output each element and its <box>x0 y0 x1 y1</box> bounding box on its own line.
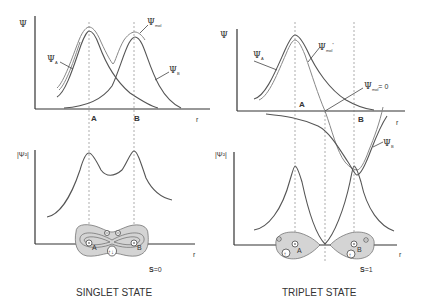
singlet-psi-a-label: ΨA <box>47 54 58 65</box>
singlet-bottom-panel: |Ψ²| r A B ↑↓ S=0 <box>17 150 196 273</box>
singlet-bottom-x-label: r <box>193 251 196 258</box>
triplet-nucleus-b-dot <box>353 243 355 245</box>
triplet-bottom-y-label: |Ψ²| <box>215 151 227 159</box>
triplet-top-y-label: Ψ <box>220 30 228 40</box>
triplet-top-x-label: r <box>396 119 399 126</box>
triplet-spin-up-a: ↑ <box>284 251 287 257</box>
singlet-spin-pair: ↑↓ <box>108 249 114 255</box>
triplet-density-curve <box>254 166 394 244</box>
singlet-psi-b-label: ΨB <box>169 65 180 76</box>
triplet-psi-b-curve <box>266 114 387 175</box>
triplet-psi-mol-label: Ψmol* <box>318 42 334 53</box>
singlet-psi-mol-outer <box>59 42 80 90</box>
singlet-density-curve <box>47 151 172 217</box>
triplet-psi-b-label: ΨB <box>383 138 394 149</box>
singlet-top-nucleus-a: A <box>91 114 97 123</box>
singlet-title: SINGLET STATE <box>76 287 152 298</box>
singlet-psi-mol-label: Ψmol <box>147 17 161 28</box>
singlet-top-y-label: Ψ <box>19 19 27 29</box>
singlet-spin-state: S=0 <box>149 266 162 273</box>
singlet-psi-mol-curve <box>57 27 145 88</box>
singlet-psi-b-leader <box>155 72 169 80</box>
triplet-cloud-label-b: B <box>357 246 362 253</box>
triplet-cloud-label-a: A <box>297 247 302 254</box>
triplet-psi-b-leader <box>373 142 383 147</box>
triplet-spin-up-b: ↑ <box>349 252 352 258</box>
singlet-nucleus-a-dot <box>88 242 90 244</box>
triplet-psi-a-leader <box>254 61 277 70</box>
triplet-psi-a-label: ΨA <box>253 50 264 61</box>
triplet-node-leader <box>325 88 363 111</box>
triplet-title: TRIPLET STATE <box>282 287 357 298</box>
singlet-top-panel: Ψ r A B ΨA Ψmol ΨB <box>19 16 210 123</box>
triplet-top-panel: Ψ r A B ΨA Ψmol* Ψmol= 0 ΨB <box>220 29 405 175</box>
singlet-cloud-label-b: B <box>137 244 142 251</box>
bonding-diagram: Ψ r A B ΨA Ψmol ΨB |Ψ²| r A <box>0 0 423 304</box>
singlet-psi-b-curve <box>64 37 181 108</box>
singlet-top-x-label: r <box>196 116 199 123</box>
singlet-nucleus-b-dot <box>133 242 135 244</box>
triplet-top-nucleus-b: B <box>358 115 364 124</box>
singlet-bottom-y-label: |Ψ²| <box>17 151 29 159</box>
triplet-bottom-panel: |Ψ²| r A B ↑ ↑ S=1 <box>215 151 402 273</box>
singlet-top-nucleus-b: B <box>134 114 140 123</box>
triplet-top-nucleus-a: A <box>299 100 305 109</box>
singlet-psi-a-leader <box>60 62 73 69</box>
triplet-psi-mol-star-curve <box>259 40 383 170</box>
triplet-spin-state: S=1 <box>360 266 373 273</box>
triplet-psi-a-curve <box>254 35 374 110</box>
triplet-node-label: Ψmol= 0 <box>364 81 388 92</box>
singlet-psi-a-curve <box>57 31 158 108</box>
triplet-bottom-x-label: r <box>399 251 402 258</box>
singlet-cloud-label-a: A <box>92 244 97 251</box>
triplet-nucleus-a-dot <box>294 243 296 245</box>
